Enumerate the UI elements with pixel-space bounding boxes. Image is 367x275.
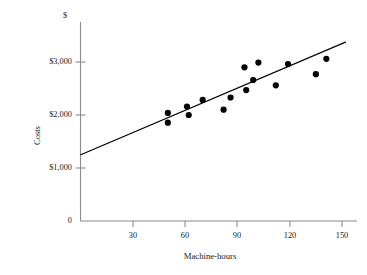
data-points-group: [165, 56, 330, 126]
x-tick-label-30: 30: [129, 232, 137, 240]
data-point: [200, 97, 206, 103]
data-point: [323, 56, 329, 62]
data-point: [165, 110, 171, 116]
data-point: [313, 71, 319, 77]
data-point: [273, 82, 279, 88]
y-tick-label-0: 0: [26, 217, 72, 225]
data-point: [250, 77, 256, 83]
data-point: [184, 103, 190, 109]
y-tick-label-2000: $2,000: [26, 111, 72, 119]
data-point: [165, 120, 171, 126]
y-axis-currency-marker: $: [63, 12, 67, 20]
regression-trendline: [81, 42, 346, 155]
x-tick-label-60: 60: [181, 232, 189, 240]
x-axis-title: Machine-hours: [184, 252, 237, 261]
y-tick-label-3000: $3,000: [26, 58, 72, 66]
data-point: [186, 112, 192, 118]
data-point: [241, 64, 247, 70]
data-point: [285, 61, 291, 67]
data-point: [255, 59, 261, 65]
x-tick-label-90: 90: [233, 232, 241, 240]
data-point: [220, 107, 226, 113]
y-axis-title: Costs: [33, 126, 42, 145]
scatter-plot-figure: $ $3,000 $2,000 $1,000 0 30 60 90 120 15…: [0, 0, 367, 275]
x-tick-label-150: 150: [336, 232, 348, 240]
x-tick-label-120: 120: [284, 232, 296, 240]
data-point: [243, 87, 249, 93]
x-axis-ticks: [133, 221, 342, 227]
y-tick-label-1000: $1,000: [26, 164, 72, 172]
data-point: [227, 94, 233, 100]
